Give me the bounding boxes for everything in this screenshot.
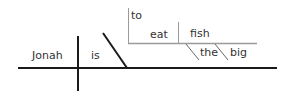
infinitive-verb-word: eat [150,29,168,41]
subject-word: Jonah [32,50,63,62]
infinitive-marker-word: to [131,10,142,22]
modifier-word-big: big [230,47,247,59]
modifier-slant-the [186,44,199,60]
complement-slant [103,33,127,68]
modifier-word-the: the [200,47,218,59]
verb-word: is [91,50,100,62]
object-word: fish [190,28,210,40]
sentence-diagram: Jonah is to eat fish the big [0,0,285,96]
